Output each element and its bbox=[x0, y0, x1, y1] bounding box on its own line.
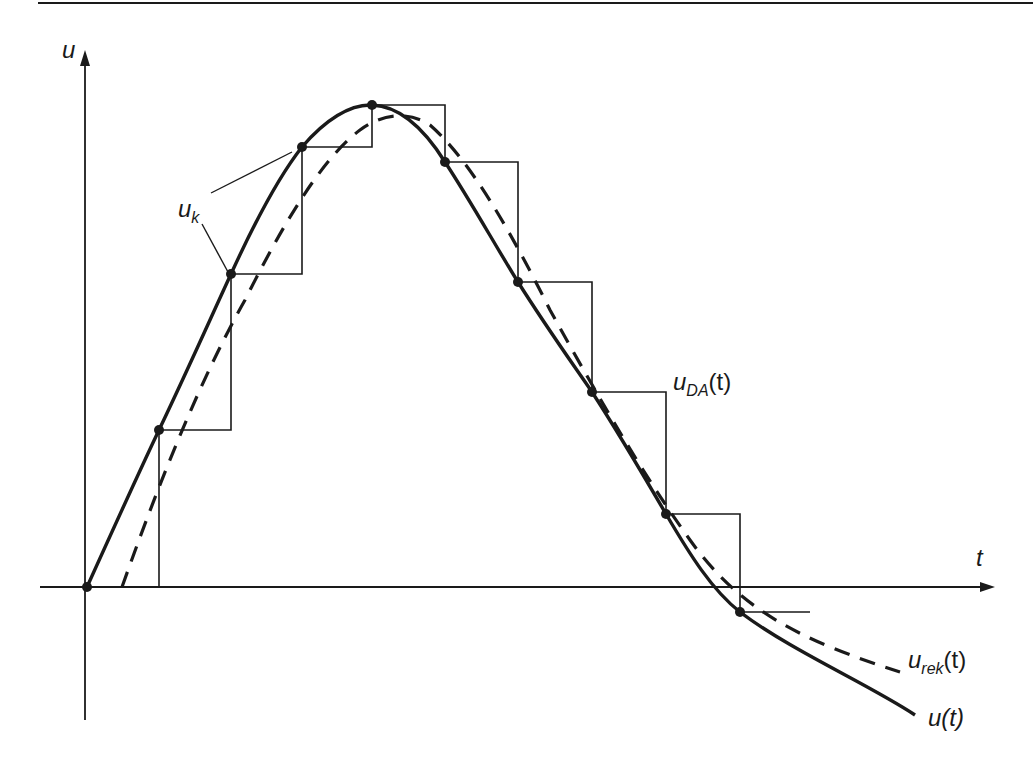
x-axis-arrow-icon bbox=[980, 582, 995, 592]
uk-leaders bbox=[202, 152, 292, 272]
x-axis-label: t bbox=[976, 544, 984, 571]
sample-point bbox=[661, 509, 671, 519]
label-urek: urek(t) bbox=[908, 646, 966, 677]
signal-diagram: u t uk uDA(t) urek(t) u(t) bbox=[0, 0, 1033, 763]
sample-point bbox=[513, 277, 523, 287]
sample-point bbox=[587, 387, 597, 397]
y-axis-arrow-icon bbox=[80, 50, 90, 66]
label-u: u(t) bbox=[928, 704, 964, 731]
sample-point bbox=[735, 607, 745, 617]
sample-point bbox=[367, 100, 377, 110]
sample-points bbox=[82, 100, 745, 617]
label-uda: uDA(t) bbox=[673, 368, 731, 399]
axes bbox=[40, 50, 995, 720]
curve-urek bbox=[122, 116, 900, 672]
sample-point bbox=[297, 142, 307, 152]
y-axis-label: u bbox=[62, 36, 75, 63]
curve-u bbox=[87, 105, 915, 715]
sample-point bbox=[82, 582, 92, 592]
sample-point bbox=[440, 157, 450, 167]
label-uk: uk bbox=[178, 195, 200, 226]
sample-point bbox=[154, 425, 164, 435]
staircase-uda bbox=[159, 105, 810, 612]
